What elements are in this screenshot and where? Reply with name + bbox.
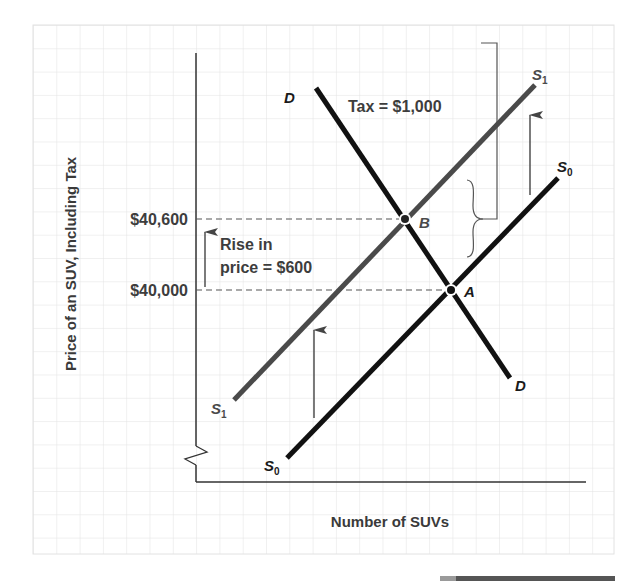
- point-b-label: B: [419, 214, 430, 231]
- tax-incidence-chart: Price of an SUV, Including Tax Number of…: [0, 0, 635, 581]
- tax-label: Tax = $1,000: [348, 98, 442, 115]
- tick-40600: $40,600: [130, 211, 188, 228]
- rise-label-line1: Rise in: [220, 236, 272, 253]
- point-a: [445, 284, 457, 296]
- bottom-bar: [440, 576, 615, 581]
- tick-40000: $40,000: [130, 282, 188, 299]
- point-a-label: A: [463, 283, 475, 300]
- grid: [33, 25, 614, 554]
- y-axis-label: Price of an SUV, Including Tax: [62, 156, 79, 371]
- rise-label-line2: price = $600: [220, 259, 312, 276]
- demand-label-bottom: D: [515, 377, 526, 394]
- point-b: [399, 213, 411, 225]
- demand-label-top: D: [284, 89, 295, 106]
- x-axis-label: Number of SUVs: [331, 513, 449, 530]
